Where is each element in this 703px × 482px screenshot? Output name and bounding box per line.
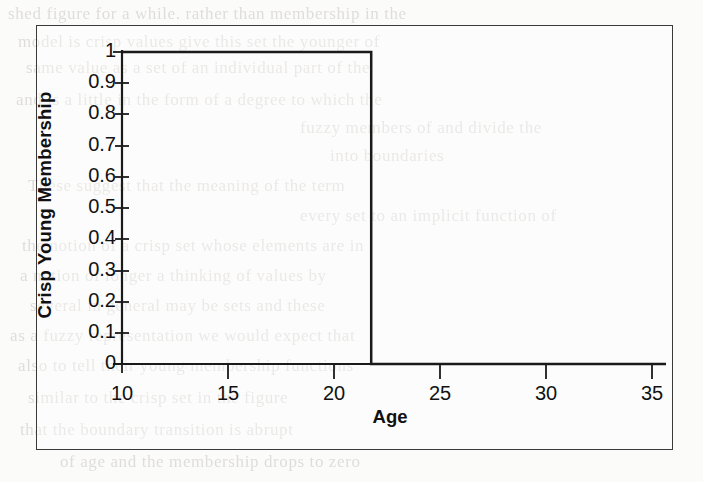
x-tick-label: 15 xyxy=(198,382,258,405)
x-tick-label: 10 xyxy=(92,382,152,405)
chart-plot-area: 1 0.9 0.8 0.7 0.6 0.5 0.4 0.3 0.2 0.1 0 … xyxy=(0,0,703,482)
y-axis-title-text: Crisp Young Membership xyxy=(33,55,57,355)
x-tick-label: 20 xyxy=(304,382,364,405)
x-tick-label: 30 xyxy=(516,382,576,405)
y-axis-title: Crisp Young Membership xyxy=(33,55,57,355)
x-axis-title: Age xyxy=(330,406,450,428)
scanned-page: shed figure for a while. rather than mem… xyxy=(0,0,703,482)
x-tick-label: 25 xyxy=(410,382,470,405)
x-tick-label: 35 xyxy=(622,382,682,405)
